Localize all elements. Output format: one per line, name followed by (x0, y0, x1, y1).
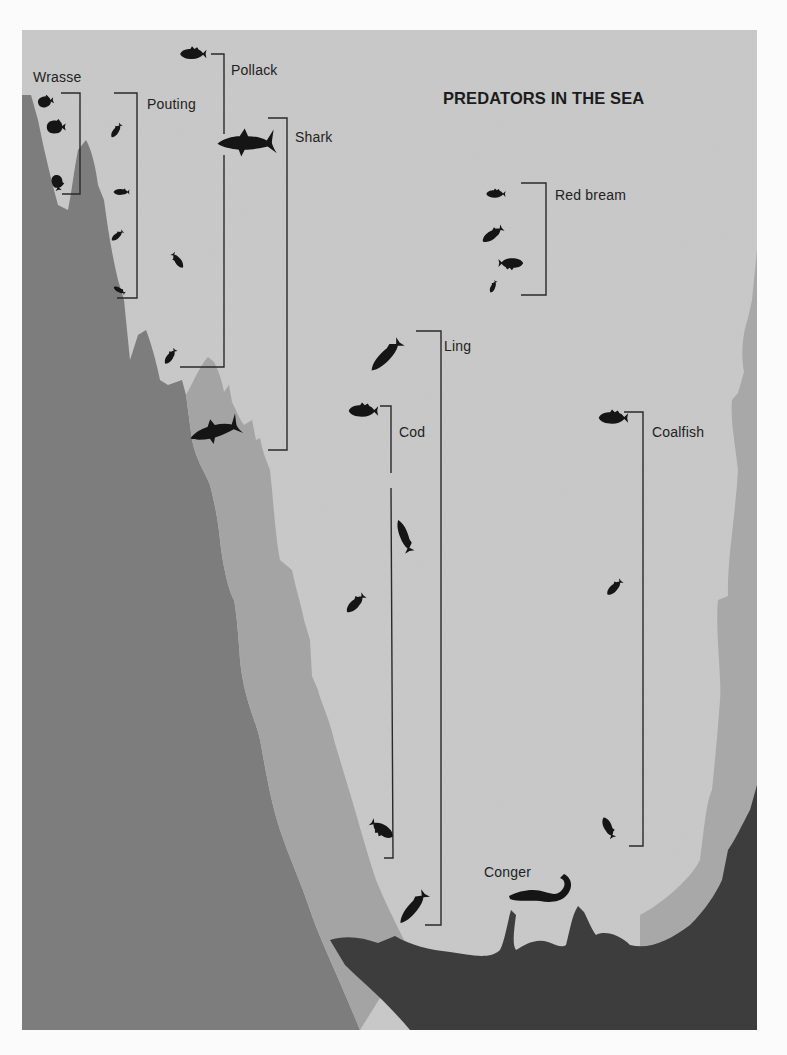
label-pouting: Pouting (147, 96, 196, 112)
label-pollack: Pollack (231, 62, 278, 78)
label-conger: Conger (484, 864, 531, 880)
label-coalfish: Coalfish (652, 424, 704, 440)
label-cod: Cod (399, 424, 425, 440)
label-wrasse: Wrasse (33, 69, 81, 85)
label-red-bream: Red bream (555, 187, 626, 203)
predators-diagram (0, 0, 787, 1055)
label-ling: Ling (444, 338, 471, 354)
label-shark: Shark (295, 129, 333, 145)
diagram-title: PREDATORS IN THE SEA (443, 89, 644, 108)
